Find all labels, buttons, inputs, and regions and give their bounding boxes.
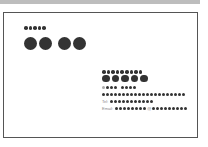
address-masked bbox=[102, 91, 187, 97]
tel-row: Tel: bbox=[102, 98, 187, 104]
company-sub-masked bbox=[102, 75, 187, 83]
contact-block: Tel: Email: @ bbox=[102, 70, 187, 112]
email-row: Email: @ bbox=[102, 105, 187, 111]
title-masked bbox=[24, 26, 46, 30]
email-label: Email: bbox=[102, 106, 113, 111]
name-masked bbox=[24, 37, 86, 50]
address-short bbox=[102, 84, 187, 90]
top-band bbox=[0, 0, 200, 4]
company-masked bbox=[102, 70, 187, 74]
tel-label: Tel: bbox=[102, 99, 108, 104]
email-at: @ bbox=[147, 106, 151, 111]
